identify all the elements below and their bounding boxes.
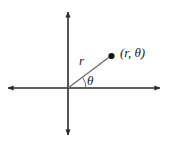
angle-arc: [83, 77, 86, 88]
polar-diagram-svg: [0, 0, 178, 141]
angle-label: θ: [87, 74, 93, 87]
polar-point-marker: [108, 53, 114, 59]
polar-coordinate-figure: r θ (r, θ): [0, 0, 178, 141]
point-coordinate-label: (r, θ): [120, 46, 145, 59]
radius-label: r: [79, 54, 84, 67]
